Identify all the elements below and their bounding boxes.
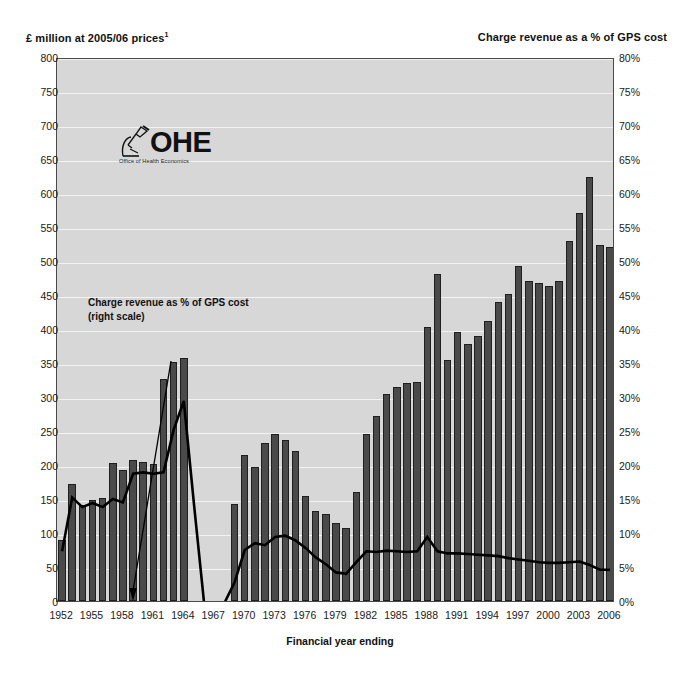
- bar: [566, 241, 574, 601]
- y-axis-right-tick-label: 65%: [619, 155, 659, 165]
- x-axis-tick-label: 1973: [257, 609, 291, 621]
- x-axis-tick-label: 1967: [196, 609, 230, 621]
- y-axis-right-tick-label: 80%: [619, 53, 659, 63]
- bar: [68, 484, 76, 601]
- bar: [353, 492, 361, 601]
- bar: [363, 434, 371, 601]
- y-axis-left-tick-label: 300: [18, 393, 58, 403]
- y-axis-right-tick-label: 10%: [619, 529, 659, 539]
- bar: [464, 344, 472, 601]
- y-axis-left-tick-label: 700: [18, 121, 58, 131]
- y-axis-right-tick-label: 5%: [619, 563, 659, 573]
- y-axis-right-tick-label: 25%: [619, 427, 659, 437]
- bar: [535, 283, 543, 601]
- bar: [424, 327, 432, 601]
- bar: [231, 504, 239, 601]
- right-axis-title: Charge revenue as a % of GPS cost: [478, 31, 667, 43]
- bar: [393, 387, 401, 601]
- bar: [383, 394, 391, 601]
- y-axis-left-tick-label: 0: [18, 597, 58, 607]
- y-axis-left-tick-label: 400: [18, 325, 58, 335]
- bar: [484, 321, 492, 601]
- y-axis-right-tick-label: 30%: [619, 393, 659, 403]
- bar: [58, 540, 66, 601]
- y-axis-left-tick-label: 600: [18, 189, 58, 199]
- line-series-annotation: Charge revenue as % of GPS cost (right s…: [88, 296, 249, 324]
- annotation-line-2: (right scale): [88, 310, 249, 324]
- bar: [545, 286, 553, 601]
- bar: [505, 294, 513, 601]
- bar: [322, 514, 330, 601]
- x-axis-tick-label: 1982: [348, 609, 382, 621]
- bar: [302, 496, 310, 601]
- y-axis-right-tick-label: 45%: [619, 291, 659, 301]
- bar: [282, 440, 290, 601]
- x-axis-tick-label: 2000: [531, 609, 565, 621]
- bar: [332, 523, 340, 601]
- x-axis-tick-label: 1955: [75, 609, 109, 621]
- left-axis-title-text: £ million at 2005/06 prices: [26, 32, 164, 44]
- x-axis-title: Financial year ending: [0, 635, 680, 647]
- y-axis-left-tick-label: 450: [18, 291, 58, 301]
- y-axis-right-tick-label: 35%: [619, 359, 659, 369]
- y-axis-left-tick-label: 150: [18, 495, 58, 505]
- y-axis-right-tick-label: 15%: [619, 495, 659, 505]
- bar: [495, 302, 503, 601]
- x-axis-tick-label: 1979: [318, 609, 352, 621]
- y-axis-left-tick-label: 250: [18, 427, 58, 437]
- x-axis-tick-label: 1985: [379, 609, 413, 621]
- bar: [555, 281, 563, 601]
- x-axis-tick-label: 2003: [561, 609, 595, 621]
- y-axis-left-tick-label: 500: [18, 257, 58, 267]
- bar: [586, 177, 594, 601]
- bar: [413, 382, 421, 601]
- y-axis-right-tick-label: 40%: [619, 325, 659, 335]
- y-axis-left-tick-label: 350: [18, 359, 58, 369]
- y-axis-left-tick-label: 100: [18, 529, 58, 539]
- bar: [596, 245, 604, 601]
- ohe-logo: OHE Office of Health Economics: [117, 125, 237, 169]
- bar: [271, 434, 279, 601]
- x-axis-tick-label: 1991: [440, 609, 474, 621]
- x-axis-tick-label: 1952: [44, 609, 78, 621]
- bar: [576, 213, 584, 601]
- y-axis-right-tick-label: 50%: [619, 257, 659, 267]
- bar: [261, 443, 269, 601]
- bar: [606, 247, 614, 601]
- x-axis-tick-label: 1997: [501, 609, 535, 621]
- x-axis-tick-label: 1988: [409, 609, 443, 621]
- x-axis-tick-label: 1961: [135, 609, 169, 621]
- bar: [403, 383, 411, 601]
- y-axis-right-tick-label: 70%: [619, 121, 659, 131]
- chart-figure: £ million at 2005/06 prices1 Charge reve…: [0, 0, 680, 678]
- x-axis-tick-label: 2006: [592, 609, 626, 621]
- y-axis-left-tick-label: 800: [18, 53, 58, 63]
- bar: [444, 360, 452, 601]
- y-axis-left-tick-label: 550: [18, 223, 58, 233]
- microscope-icon: [117, 125, 151, 159]
- y-axis-right-tick-label: 0%: [619, 597, 659, 607]
- bar: [251, 467, 259, 601]
- ohe-subtitle: Office of Health Economics: [119, 158, 189, 164]
- y-axis-right-tick-label: 75%: [619, 87, 659, 97]
- y-axis-right-tick-label: 55%: [619, 223, 659, 233]
- y-axis-left-tick-label: 200: [18, 461, 58, 471]
- bar: [79, 505, 87, 601]
- y-axis-right-tick-label: 20%: [619, 461, 659, 471]
- bar: [292, 451, 300, 601]
- bar: [312, 511, 320, 601]
- y-axis-left-tick-label: 650: [18, 155, 58, 165]
- x-axis-tick-label: 1958: [105, 609, 139, 621]
- bar: [434, 274, 442, 601]
- y-axis-right-tick-label: 60%: [619, 189, 659, 199]
- x-axis-tick-label: 1970: [227, 609, 261, 621]
- annotation-line-1: Charge revenue as % of GPS cost: [88, 296, 249, 310]
- annotation-arrow-icon: [113, 359, 193, 602]
- y-axis-left-tick-label: 50: [18, 563, 58, 573]
- bar: [99, 498, 107, 601]
- bar: [525, 281, 533, 601]
- bar: [373, 416, 381, 601]
- y-axis-left-tick-label: 750: [18, 87, 58, 97]
- bar: [474, 336, 482, 601]
- ohe-wordmark: OHE: [150, 128, 211, 157]
